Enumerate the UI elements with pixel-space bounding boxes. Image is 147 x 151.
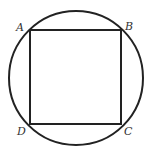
diagram-canvas: A B C D (0, 0, 147, 151)
vertex-label-a: A (15, 21, 24, 34)
inscribed-square (30, 30, 121, 124)
vertex-label-c: C (124, 125, 133, 138)
vertex-label-d: D (16, 125, 26, 138)
vertex-label-b: B (124, 20, 133, 33)
